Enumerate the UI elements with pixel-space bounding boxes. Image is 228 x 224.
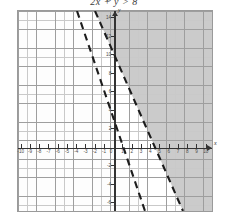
y-tick-label: 16 bbox=[102, 0, 111, 1]
x-axis-label: x bbox=[214, 140, 217, 146]
x-tick-mark bbox=[122, 144, 123, 149]
x-tick-label: 10 bbox=[203, 149, 208, 154]
x-tick-mark bbox=[76, 144, 77, 149]
y-tick-mark bbox=[111, 73, 116, 74]
y-tick-mark bbox=[111, 202, 116, 203]
y-tick-label: 4 bbox=[102, 107, 111, 112]
y-axis-label: y bbox=[118, 7, 121, 13]
x-tick-mark bbox=[95, 144, 96, 149]
x-tick-label: -10 bbox=[17, 149, 24, 154]
x-tick-mark bbox=[169, 144, 170, 149]
x-tick-mark bbox=[67, 144, 68, 149]
y-tick-label: 6 bbox=[102, 89, 111, 94]
y-tick-mark bbox=[111, 165, 116, 166]
x-tick-mark bbox=[178, 144, 179, 149]
y-tick-mark bbox=[111, 128, 116, 129]
x-tick-label: 7 bbox=[177, 149, 180, 154]
y-tick-mark bbox=[111, 91, 116, 92]
x-tick-mark bbox=[159, 144, 160, 149]
x-tick-label: 3 bbox=[140, 149, 143, 154]
x-tick-mark bbox=[104, 144, 105, 149]
x-tick-label: -8 bbox=[37, 149, 41, 154]
coordinate-plane bbox=[17, 10, 213, 212]
graph-figure: 2x + y > 8 bbox=[0, 0, 228, 224]
x-tick-label: -2 bbox=[93, 149, 97, 154]
y-tick-mark bbox=[111, 17, 116, 18]
x-tick-label: -9 bbox=[28, 149, 32, 154]
x-tick-mark bbox=[58, 144, 59, 149]
x-tick-label: 2 bbox=[130, 149, 133, 154]
y-tick-label: -6 bbox=[102, 200, 111, 205]
x-tick-label: -5 bbox=[65, 149, 69, 154]
y-tick-label: 10 bbox=[102, 52, 111, 57]
page-title: 2x + y > 8 bbox=[0, 0, 228, 7]
x-tick-label: 8 bbox=[186, 149, 189, 154]
x-tick-label: 1 bbox=[121, 149, 124, 154]
y-tick-label: -4 bbox=[102, 181, 111, 186]
x-tick-mark bbox=[150, 144, 151, 149]
y-tick-label: -2 bbox=[102, 163, 111, 168]
x-tick-mark bbox=[132, 144, 133, 149]
x-tick-label: -3 bbox=[83, 149, 87, 154]
y-tick-label: 8 bbox=[102, 70, 111, 75]
x-tick-label: -7 bbox=[46, 149, 50, 154]
x-tick-label: 0 bbox=[110, 149, 113, 154]
x-tick-label: 4 bbox=[149, 149, 152, 154]
y-tick-mark bbox=[111, 110, 116, 111]
y-axis-arrow bbox=[112, 11, 118, 16]
x-tick-label: 9 bbox=[195, 149, 198, 154]
x-tick-mark bbox=[21, 144, 22, 149]
y-tick-mark bbox=[111, 54, 116, 55]
x-tick-mark bbox=[85, 144, 86, 149]
x-tick-mark bbox=[206, 144, 207, 149]
x-tick-label: -4 bbox=[74, 149, 78, 154]
y-tick-mark bbox=[111, 184, 116, 185]
y-tick-label: 2 bbox=[102, 126, 111, 131]
x-tick-mark bbox=[187, 144, 188, 149]
y-axis bbox=[114, 11, 115, 211]
x-tick-mark bbox=[141, 144, 142, 149]
x-tick-mark bbox=[39, 144, 40, 149]
x-tick-mark bbox=[48, 144, 49, 149]
x-tick-label: 5 bbox=[158, 149, 161, 154]
y-tick-label: 14 bbox=[102, 15, 111, 20]
x-tick-label: -6 bbox=[56, 149, 60, 154]
y-tick-label: 12 bbox=[102, 33, 111, 38]
x-tick-label: 6 bbox=[167, 149, 170, 154]
x-tick-mark bbox=[196, 144, 197, 149]
x-tick-mark bbox=[30, 144, 31, 149]
y-tick-mark bbox=[111, 36, 116, 37]
x-tick-label: -1 bbox=[102, 149, 106, 154]
